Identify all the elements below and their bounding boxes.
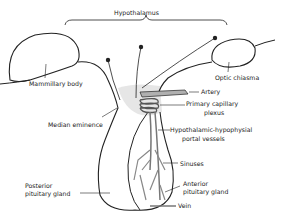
label-vein: Vein (178, 202, 191, 209)
label-mammillary-body: Mammillary body (29, 80, 83, 87)
label-artery: Artery (201, 88, 220, 95)
label-posterior-pituitary-line1: Posterior (25, 182, 52, 189)
hypothalamus-brace (65, 15, 227, 25)
label-anterior-pituitary-line2: pituitary gland (183, 188, 228, 195)
hypothalamus-pituitary-diagram: Hypothalamus Mammillary body Optic chias… (0, 0, 287, 216)
label-optic-chiasma: Optic chiasma (215, 74, 259, 81)
label-primary-capillary-plexus-line1: Primary capillary (186, 100, 238, 107)
label-anterior-pituitary-line1: Anterior (183, 180, 208, 187)
label-posterior-pituitary-line2: pituitary gland (25, 190, 70, 197)
label-portal-vessels-line2: portal vessels (182, 135, 225, 142)
label-portal-vessels-line1: Hypothalamic-hypophysial (170, 126, 252, 133)
label-median-eminence: Median eminence (48, 121, 103, 128)
mammillary-body-outline (9, 33, 79, 81)
optic-chiasma-outline (212, 39, 255, 67)
label-sinuses: Sinuses (180, 160, 204, 167)
label-hypothalamus: Hypothalamus (114, 9, 159, 16)
label-primary-capillary-plexus-line2: plexus (204, 109, 224, 116)
